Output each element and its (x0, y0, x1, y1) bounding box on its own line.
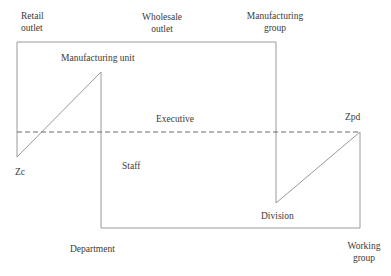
label-working-line2: group (342, 252, 386, 264)
label-mfg-group-line2: group (240, 22, 310, 34)
label-mfg-group-line1: Manufacturing (240, 10, 310, 22)
label-retail-line1: Retail (21, 10, 44, 22)
diagram-lines (0, 0, 391, 276)
label-staff: Staff (122, 160, 140, 172)
label-retail-outlet: Retail outlet (21, 10, 44, 34)
label-working-group: Working group (342, 240, 386, 264)
label-manufacturing-unit: Manufacturing unit (61, 52, 135, 64)
zc-to-manufacturing-unit-line (17, 72, 360, 228)
label-division: Division (261, 210, 294, 222)
label-zc: Zc (15, 166, 25, 178)
upper-frame-line (17, 42, 276, 203)
label-retail-line2: outlet (21, 22, 44, 34)
label-working-line1: Working (342, 240, 386, 252)
label-zpd: Zpd (345, 111, 360, 123)
label-manufacturing-group: Manufacturing group (240, 10, 310, 34)
label-executive: Executive (156, 113, 194, 125)
label-wholesale-outlet: Wholesale outlet (138, 11, 186, 35)
label-department: Department (70, 243, 115, 255)
label-wholesale-line2: outlet (138, 23, 186, 35)
label-wholesale-line1: Wholesale (138, 11, 186, 23)
